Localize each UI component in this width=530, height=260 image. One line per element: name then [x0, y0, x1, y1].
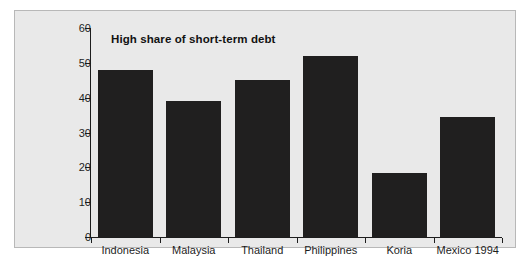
bar-slot: [98, 28, 153, 237]
y-tick-label: 40: [45, 92, 91, 103]
y-tick-label: 60: [45, 23, 91, 34]
x-tick-mark: [434, 238, 435, 243]
chart-figure: High share of short-term debt 0102030405…: [14, 10, 516, 248]
x-tick-label: Koria: [365, 245, 434, 256]
x-tick-label: Indonesia: [91, 245, 160, 256]
y-tick-label: 0: [45, 232, 91, 243]
x-tick-mark: [228, 238, 229, 243]
y-tick-label: 30: [45, 127, 91, 138]
bar[interactable]: [235, 80, 290, 237]
bar[interactable]: [372, 173, 427, 237]
bar[interactable]: [303, 56, 358, 237]
x-tick-mark: [160, 238, 161, 243]
x-tick-mark: [297, 238, 298, 243]
x-tick-label: Thailand: [228, 245, 297, 256]
y-tick-label: 20: [45, 162, 91, 173]
x-tick-label: Philippines: [297, 245, 366, 256]
bar-slot: [372, 28, 427, 237]
bar-slot: [166, 28, 221, 237]
y-tick-label: 10: [45, 197, 91, 208]
x-tick-mark: [365, 238, 366, 243]
x-tick-mark: [91, 238, 92, 243]
bar-slot: [303, 28, 358, 237]
bar-series: [91, 28, 502, 237]
x-tick-mark: [502, 238, 503, 243]
x-tick-label: Malaysia: [160, 245, 229, 256]
bar-slot: [440, 28, 495, 237]
bar[interactable]: [440, 117, 495, 237]
bar[interactable]: [166, 101, 221, 237]
x-tick-label: Mexico 1994: [434, 245, 503, 256]
bar-slot: [235, 28, 290, 237]
bar[interactable]: [98, 70, 153, 237]
y-tick-label: 50: [45, 57, 91, 68]
